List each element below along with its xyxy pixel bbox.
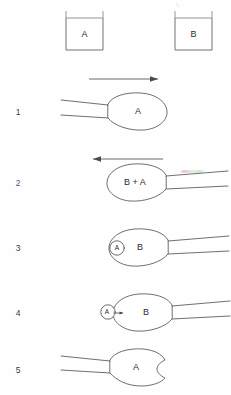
step-1-bulb-label: A bbox=[135, 106, 141, 116]
vessel-a: A bbox=[66, 11, 103, 50]
step-4-bulb-label: B bbox=[143, 307, 149, 317]
step-4: 4 B A bbox=[16, 294, 230, 331]
step-1-pipette: A bbox=[61, 93, 167, 130]
scan-color-fringe bbox=[178, 170, 208, 173]
step-1: 1 A bbox=[16, 93, 167, 130]
step-2-pipette: B + A bbox=[107, 164, 228, 201]
step-3-pipette: B A bbox=[109, 229, 229, 266]
step-5-number: 5 bbox=[16, 365, 21, 375]
step-4-droplet-label: A bbox=[105, 308, 110, 315]
arrow-right bbox=[89, 76, 158, 82]
arrow-left bbox=[93, 156, 163, 162]
step-3: 3 B A bbox=[16, 229, 229, 266]
step-3-bulb-label: B bbox=[137, 242, 143, 252]
vessel-b-label: B bbox=[190, 29, 196, 39]
step-5: 5 A bbox=[16, 349, 165, 386]
scan-artifact-top bbox=[176, 3, 179, 7]
step-2: 2 B + A bbox=[16, 164, 228, 201]
step-3-droplet-label: A bbox=[115, 244, 120, 251]
pipette-sequence-figure: A B 1 A bbox=[0, 0, 231, 395]
diagram-root: A B 1 A bbox=[0, 0, 231, 395]
step-4-pipette: B A bbox=[101, 294, 230, 331]
step-1-number: 1 bbox=[16, 107, 21, 117]
vessel-b: B bbox=[175, 11, 212, 50]
step-4-number: 4 bbox=[16, 308, 21, 318]
vessel-a-label: A bbox=[81, 29, 87, 39]
step-2-bulb-label: B + A bbox=[124, 177, 146, 187]
step-3-number: 3 bbox=[16, 243, 21, 253]
step-5-pipette: A bbox=[61, 349, 165, 386]
step-2-number: 2 bbox=[16, 178, 21, 188]
step-5-bulb-label: A bbox=[133, 362, 139, 372]
